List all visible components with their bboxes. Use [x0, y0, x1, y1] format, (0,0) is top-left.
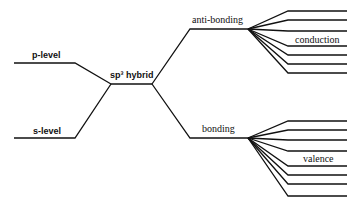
sp3-hybrid-label: sp³ hybrid — [110, 70, 154, 80]
s-level-label: s-level — [33, 126, 61, 136]
valence-label: valence — [303, 154, 334, 164]
bonding-label: bonding — [202, 124, 235, 134]
conduction-label: conduction — [295, 35, 339, 45]
p-level-line — [14, 63, 111, 84]
energy-diagram — [0, 0, 364, 213]
p-level-label: p-level — [32, 50, 61, 60]
s-level-line — [14, 84, 111, 138]
anti-bonding-label: anti-bonding — [192, 15, 243, 25]
anti-bonding-line — [152, 29, 248, 84]
